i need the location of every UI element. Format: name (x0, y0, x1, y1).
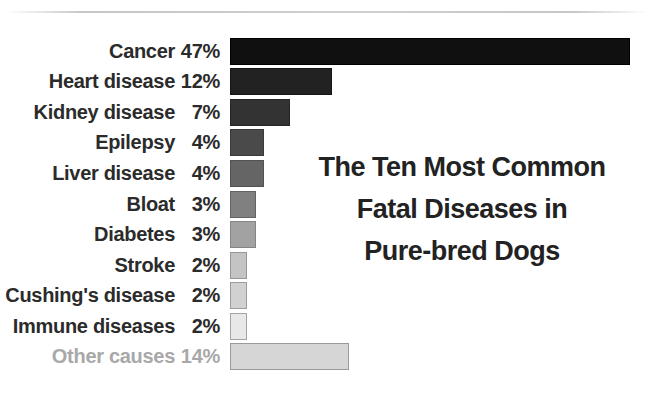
category-label: Heart disease (0, 70, 175, 93)
bar (230, 252, 247, 279)
scan-artifact-line (6, 11, 648, 13)
chart-title: The Ten Most Common Fatal Diseases in Pu… (312, 146, 612, 272)
value-label: 2% (175, 284, 220, 307)
chart-row: Cancer47% (0, 36, 657, 67)
bar-area (230, 68, 657, 95)
value-label: 7% (175, 101, 220, 124)
category-label: Stroke (0, 254, 175, 277)
chart-title-line-3: Pure-bred Dogs (312, 230, 612, 272)
bar-area (230, 313, 657, 340)
category-label: Epilepsy (0, 131, 175, 154)
bar-area (230, 99, 657, 126)
bar-area (230, 282, 657, 309)
chart-canvas: Cancer47%Heart disease12%Kidney disease7… (0, 0, 657, 399)
category-label: Liver disease (0, 162, 175, 185)
chart-row: Cushing's disease2% (0, 280, 657, 311)
chart-row: Immune diseases2% (0, 311, 657, 342)
value-label: 2% (175, 254, 220, 277)
value-label: 4% (175, 162, 220, 185)
bar (230, 343, 349, 370)
bar (230, 191, 256, 218)
value-label: 14% (175, 345, 220, 368)
value-label: 4% (175, 131, 220, 154)
category-label: Kidney disease (0, 101, 175, 124)
category-label: Immune diseases (0, 315, 175, 338)
chart-title-line-2: Fatal Diseases in (312, 188, 612, 230)
value-label: 47% (175, 40, 220, 63)
category-label: Bloat (0, 193, 175, 216)
bar (230, 129, 264, 156)
value-label: 12% (175, 70, 220, 93)
value-label: 3% (175, 193, 220, 216)
value-label: 3% (175, 223, 220, 246)
chart-row: Other causes14% (0, 341, 657, 372)
bar (230, 38, 630, 65)
category-label: Cushing's disease (0, 284, 175, 307)
chart-row: Heart disease12% (0, 67, 657, 98)
bar (230, 99, 290, 126)
bar-area (230, 343, 657, 370)
bar (230, 221, 256, 248)
bar (230, 68, 332, 95)
category-label: Cancer (0, 40, 175, 63)
chart-title-line-1: The Ten Most Common (312, 146, 612, 188)
bar (230, 282, 247, 309)
category-label: Diabetes (0, 223, 175, 246)
value-label: 2% (175, 315, 220, 338)
chart-row: Kidney disease7% (0, 97, 657, 128)
category-label: Other causes (0, 345, 175, 368)
bar-area (230, 38, 657, 65)
bar (230, 313, 247, 340)
bar (230, 160, 264, 187)
